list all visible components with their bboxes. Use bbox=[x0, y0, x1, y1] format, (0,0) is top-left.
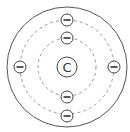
electron-icon bbox=[61, 14, 73, 26]
nucleus: C bbox=[57, 57, 77, 77]
electron-icon bbox=[61, 110, 73, 122]
electron-icon bbox=[108, 61, 120, 73]
electron-icon bbox=[14, 61, 26, 73]
electron-icon bbox=[61, 32, 73, 44]
electron-icon bbox=[61, 91, 73, 103]
nucleus-label: C bbox=[62, 60, 71, 75]
bohr-atom-diagram: C bbox=[0, 0, 130, 132]
